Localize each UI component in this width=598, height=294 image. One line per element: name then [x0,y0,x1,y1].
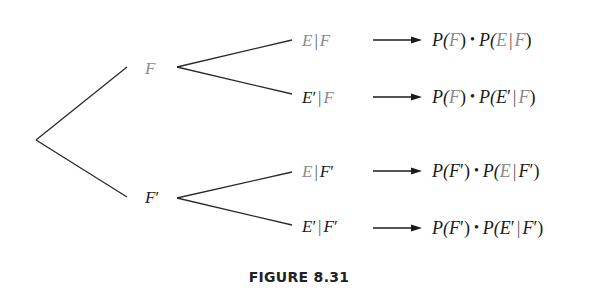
branch-F-prime-to-E-prime [177,198,292,225]
prob-open: P( [432,30,449,50]
branch-F-prime-to-E [177,172,292,198]
prob-arg: F [449,218,460,238]
node-F-prime-mark: ′ [155,188,159,207]
prob-close: ) [533,161,539,181]
given-bar: | [316,217,323,236]
multiply-dot: • [470,163,483,178]
arrow-head-icon [411,37,422,44]
arrow-head-icon [411,168,422,175]
arrow-head-icon [411,94,422,101]
outcome-label-E-prime-given-F: E′|F [302,89,334,106]
node-F-prime-text: F [145,188,155,207]
prob-arg: F [449,87,460,107]
prob-open: P( [479,30,496,50]
formula-4: P(F′)•P(E′|F′) [432,219,543,237]
node-F-text: F [145,59,155,78]
node-F-prime: F′ [145,189,159,206]
prob-close: ) [526,30,532,50]
branch-F-to-E [177,40,292,67]
figure-caption: FIGURE 8.31 [0,269,598,285]
formula-3: P(F′)•P(E|F′) [432,162,539,180]
prob-arg: F [449,30,460,50]
given-bar: | [316,88,323,107]
prob-arg-E: E [496,30,507,50]
prob-open: P( [483,218,500,238]
prob-arg: F [449,161,460,181]
outcome-label-E-prime-given-F-prime: E′|F′ [302,218,338,235]
prob-open: P( [483,161,500,181]
prob-close: ) [529,87,535,107]
prob-open: P( [432,161,449,181]
prob-arg-F: F [518,161,529,181]
event-F: F [320,162,330,181]
branch-F-to-E-prime [177,67,292,94]
event-E: E [302,162,312,181]
given-bar: | [507,30,515,50]
prob-close: ) [537,218,543,238]
prob-arg-F: F [522,218,533,238]
event-F: F [320,31,330,50]
multiply-dot: • [466,32,479,47]
event-E: E [302,31,312,50]
prime-mark: ′ [330,162,334,181]
prob-arg-E: E [500,161,511,181]
branch-root-to-F [36,67,127,140]
prime-mark: ′ [334,217,338,236]
formula-1: P(F)•P(E|F) [432,31,532,49]
prob-open: P( [432,218,449,238]
given-bar: | [312,31,319,50]
prob-arg-E: E [500,218,511,238]
event-E: E [302,88,312,107]
given-bar: | [312,162,319,181]
branch-root-to-F-prime [36,140,127,197]
event-E: E [302,217,312,236]
node-F: F [145,60,155,77]
multiply-dot: • [466,89,479,104]
prob-arg-F: F [518,87,529,107]
outcome-label-E-given-F-prime: E|F′ [302,163,334,180]
outcome-label-E-given-F: E|F [302,32,330,49]
prob-arg-F: F [515,30,526,50]
prob-arg-E: E [496,87,507,107]
prob-open: P( [432,87,449,107]
event-F: F [324,88,334,107]
prob-open: P( [479,87,496,107]
arrow-head-icon [411,225,422,232]
event-F: F [324,217,334,236]
formula-2: P(F)•P(E′|F) [432,88,535,106]
multiply-dot: • [470,220,483,235]
